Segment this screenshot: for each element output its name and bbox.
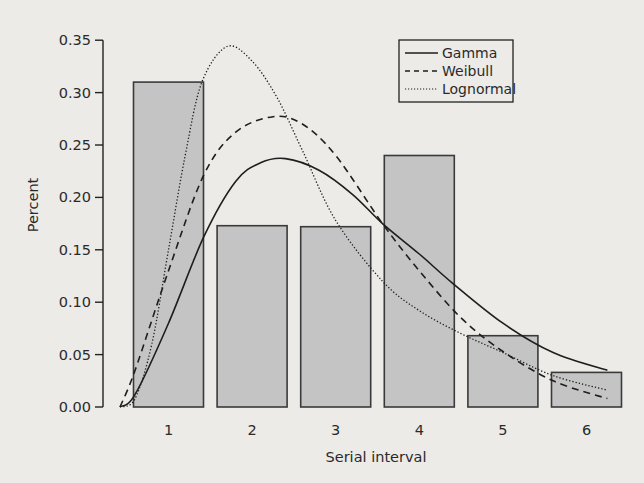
- bar-3: [301, 227, 371, 407]
- x-tick-label: 5: [498, 422, 507, 438]
- y-tick-label: 0.10: [59, 294, 91, 310]
- bar-6: [552, 372, 622, 407]
- y-tick-label: 0.30: [59, 85, 91, 101]
- x-axis-title: Serial interval: [326, 449, 427, 465]
- x-tick-label: 4: [415, 422, 424, 438]
- y-tick-label: 0.35: [59, 32, 91, 48]
- x-axis: 123456: [164, 422, 591, 438]
- x-tick-label: 1: [164, 422, 173, 438]
- bar-4: [384, 156, 454, 408]
- y-axis: 0.000.050.100.150.200.250.300.35: [59, 32, 103, 415]
- legend-label-weibull: Weibull: [442, 63, 493, 79]
- legend: Gamma Weibull Lognormal: [399, 40, 516, 102]
- y-tick-label: 0.00: [59, 399, 91, 415]
- y-tick-label: 0.25: [59, 137, 91, 153]
- legend-label-lognormal: Lognormal: [442, 81, 516, 97]
- y-tick-label: 0.15: [59, 242, 91, 258]
- x-tick-label: 3: [331, 422, 340, 438]
- bar-1: [134, 82, 204, 407]
- x-tick-label: 6: [582, 422, 591, 438]
- bar-2: [217, 226, 287, 407]
- y-tick-label: 0.20: [59, 189, 91, 205]
- y-tick-label: 0.05: [59, 347, 91, 363]
- histogram-bars: [134, 82, 622, 407]
- bar-5: [468, 336, 538, 407]
- y-axis-title: Percent: [25, 177, 41, 232]
- serial-interval-chart: 0.000.050.100.150.200.250.300.35 123456 …: [0, 0, 644, 483]
- legend-label-gamma: Gamma: [442, 45, 497, 61]
- x-tick-label: 2: [247, 422, 256, 438]
